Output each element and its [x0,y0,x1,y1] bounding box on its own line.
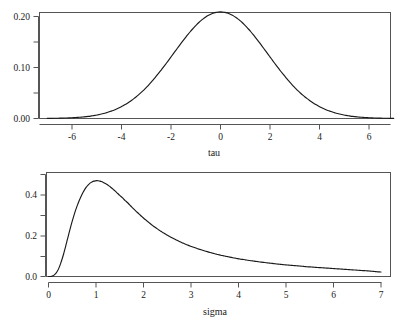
sigma-x-ticklabel-3: 3 [189,290,194,300]
sigma-axis-title: sigma [203,306,227,317]
sigma-y-ticklabel-02: 0.2 [25,231,37,241]
tau-y-ticks [34,17,39,119]
sigma-y-axis: 0.4 0.2 0.0 [25,175,45,283]
tau-x-ticklabel-2: 2 [268,132,273,142]
sigma-x-ticklabel-5: 5 [284,290,289,300]
tau-x-ticklabel-0: 0 [218,132,223,142]
sigma-x-ticklabel-2: 2 [141,290,146,300]
tau-x-ticks [72,125,369,130]
figure-container: 0.20 0.10 0.00 -6 -4 -2 0 [0,0,403,323]
sigma-density-curve [49,181,382,277]
tau-plot-frame [40,13,391,119]
sigma-x-ticklabel-1: 1 [94,290,99,300]
sigma-x-ticklabel-7: 7 [379,290,384,300]
tau-y-ticklabel-000: 0.00 [13,114,30,124]
tau-y-axis: 0.20 0.10 0.00 [13,12,38,124]
sigma-plot-frame [47,173,391,277]
sigma-x-axis: 0 1 2 3 4 5 6 7 [46,283,384,301]
sigma-y-ticklabel-00: 0.0 [25,272,37,282]
tau-x-ticklabel--2: -2 [167,132,175,142]
tau-x-ticklabel--6: -6 [68,132,76,142]
sigma-density-svg: 0.4 0.2 0.0 0 1 2 3 [0,162,403,323]
tau-y-ticklabel-010: 0.10 [13,63,30,73]
tau-density-svg: 0.20 0.10 0.00 -6 -4 -2 0 [0,0,403,161]
tau-density-curve [47,12,394,118]
sigma-x-ticklabel-4: 4 [236,290,241,300]
sigma-y-ticks [41,175,46,277]
tau-x-axis: -6 -4 -2 0 2 4 6 [40,125,391,143]
sigma-y-ticklabel-04: 0.4 [25,190,37,200]
tau-x-ticklabel--4: -4 [118,132,126,142]
sigma-x-ticklabel-6: 6 [331,290,336,300]
tau-x-ticklabel-4: 4 [317,132,322,142]
tau-x-ticklabel-6: 6 [367,132,372,142]
sigma-x-ticklabel-0: 0 [46,290,51,300]
tau-y-ticklabel-020: 0.20 [13,12,30,22]
plot-panel-tau: 0.20 0.10 0.00 -6 -4 -2 0 [0,0,403,161]
sigma-x-ticks [49,283,382,288]
plot-panel-sigma: 0.4 0.2 0.0 0 1 2 3 [0,162,403,323]
tau-axis-title: tau [208,147,220,158]
